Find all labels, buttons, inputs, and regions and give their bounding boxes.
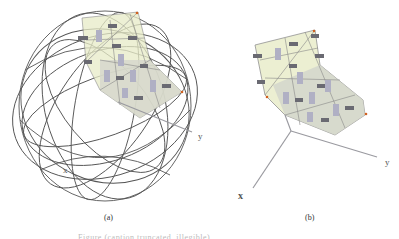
subfigure-label-a: (a) — [104, 213, 113, 222]
sphere-wireframe-illustration: y x — [0, 0, 210, 215]
axis-label-x-b: x — [238, 190, 243, 201]
figure-caption: Figure (caption truncated, illegible) — [78, 233, 210, 239]
mesh-patch-illustration: y x — [205, 0, 399, 215]
mesh-patch-a — [78, 12, 183, 118]
mesh-patch-b — [253, 30, 367, 135]
subfigure-b: y x — [205, 0, 399, 215]
axis-label-x-a: x — [63, 165, 68, 175]
axis-label-y-a: y — [198, 131, 203, 141]
axis-label-y-b: y — [385, 157, 390, 167]
subfigure-a: y x — [0, 0, 210, 215]
subfigure-label-b: (b) — [305, 213, 314, 222]
